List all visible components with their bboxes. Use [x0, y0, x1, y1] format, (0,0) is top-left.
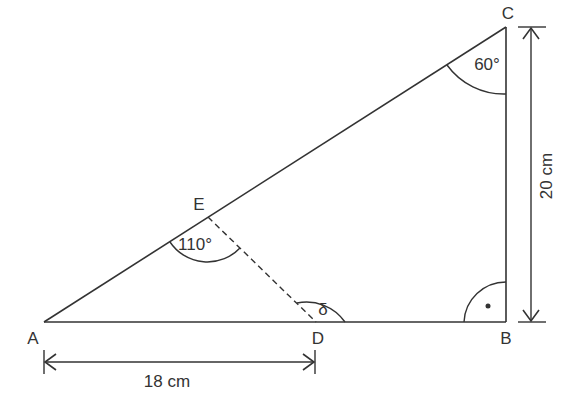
triangle-diagram: 20 cm 18 cm A B C D E 60° 110° δ: [0, 0, 564, 410]
dimension-ad: [44, 350, 315, 374]
point-b-label: B: [500, 329, 511, 348]
right-angle-dot: [486, 304, 491, 309]
point-e-label: E: [193, 195, 204, 214]
angle-c-label: 60°: [474, 55, 500, 74]
angle-d-label: δ: [318, 300, 327, 319]
angle-e-label: 110°: [178, 235, 212, 254]
right-angle-arc-b: [464, 282, 506, 322]
dimension-ad-label: 18 cm: [144, 372, 190, 391]
dimension-bc-label: 20 cm: [537, 153, 556, 199]
side-ac: [44, 27, 506, 322]
segment-ed: [208, 217, 316, 322]
point-c-label: C: [502, 4, 514, 23]
point-a-label: A: [27, 329, 39, 348]
point-d-label: D: [312, 329, 324, 348]
